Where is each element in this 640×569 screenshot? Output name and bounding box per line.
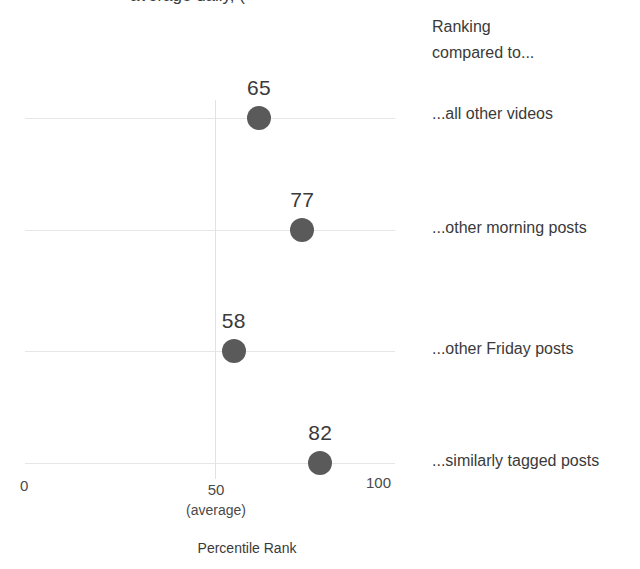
x-axis-title: Percentile Rank: [198, 540, 297, 556]
xtick-sublabel-average: (average): [186, 502, 246, 518]
category-label-similarly-tagged-posts: ...similarly tagged posts: [432, 452, 599, 470]
plot-area: 65 77 58 82 0 50 (average) 100: [0, 0, 420, 500]
legend-header-line2: compared to...: [432, 40, 534, 66]
data-point-value: 77: [290, 188, 314, 212]
legend-header: Ranking compared to...: [432, 14, 534, 66]
data-point-dot[interactable]: [290, 218, 314, 242]
xtick-label-0: 0: [20, 477, 28, 494]
data-point-value: 82: [308, 421, 332, 445]
gridline-row-2: [25, 230, 395, 231]
gridline-row-3: [25, 351, 395, 352]
data-point-dot[interactable]: [222, 339, 246, 363]
legend-header-line1: Ranking: [432, 14, 534, 40]
gridline-row-1: [25, 118, 395, 119]
category-label-other-friday-posts: ...other Friday posts: [432, 340, 573, 358]
data-point-value: 65: [247, 76, 271, 100]
average-reference-line: [215, 100, 216, 479]
category-label-other-morning-posts: ...other morning posts: [432, 219, 587, 237]
data-point-value: 58: [222, 309, 246, 333]
category-label-all-other-videos: ...all other videos: [432, 105, 553, 123]
gridline-row-4: [25, 463, 395, 464]
data-point-dot[interactable]: [308, 451, 332, 475]
percentile-rank-dot-plot: average daily, ( 65 77 58 82 0 50 (avera…: [0, 0, 640, 569]
xtick-label-50: 50: [208, 481, 225, 498]
xtick-label-100: 100: [366, 474, 391, 491]
data-point-dot[interactable]: [247, 106, 271, 130]
